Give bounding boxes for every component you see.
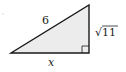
right-triangle: [11, 5, 89, 53]
stray-dot: [3, 14, 4, 15]
triangle-diagram: 6 √11 x: [0, 0, 126, 72]
vertical-leg-label: √11: [95, 26, 116, 39]
horizontal-leg-label: x: [48, 56, 55, 69]
hypotenuse-label: 6: [42, 14, 49, 27]
